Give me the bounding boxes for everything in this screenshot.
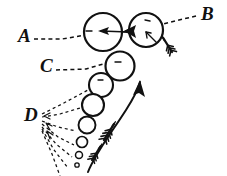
figure-container: Hand-drawn schematic of bubble chain wit… bbox=[0, 0, 227, 176]
label-b: B bbox=[200, 3, 214, 24]
bubble-d3 bbox=[79, 117, 96, 134]
bubble-d4 bbox=[77, 137, 88, 148]
leader-line-c bbox=[56, 62, 110, 70]
label-a: A bbox=[17, 25, 31, 46]
bubble-d2 bbox=[82, 94, 104, 116]
hand-drawn-diagram: Hand-drawn schematic of bubble chain wit… bbox=[0, 0, 227, 176]
leader-fan-d bbox=[42, 90, 88, 176]
bubble-d5 bbox=[76, 152, 83, 159]
label-d: D bbox=[23, 104, 38, 125]
bubble-d6 bbox=[75, 163, 79, 167]
label-c: C bbox=[40, 55, 53, 76]
